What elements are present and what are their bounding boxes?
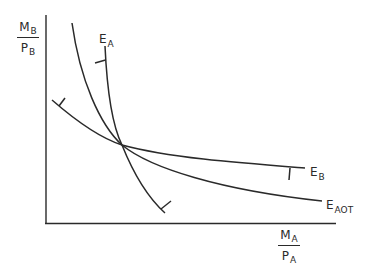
label-e-aot: EAOT bbox=[326, 196, 353, 212]
y-axis-label: MB PB bbox=[17, 20, 39, 56]
x-label-fraction-bar bbox=[278, 245, 300, 246]
curve-e-b bbox=[52, 100, 305, 168]
tick-e-b-left bbox=[59, 98, 65, 106]
curve-e-a bbox=[105, 46, 165, 213]
tick-e-a-upper bbox=[95, 60, 106, 63]
x-label-numerator: M bbox=[280, 228, 290, 242]
x-axis-label: MA PA bbox=[278, 228, 300, 264]
y-label-denominator: P bbox=[21, 41, 28, 55]
curve-e-aot bbox=[72, 23, 322, 201]
y-label-fraction-bar bbox=[17, 37, 39, 38]
tick-e-a-lower bbox=[161, 201, 171, 209]
tick-e-b-right bbox=[289, 168, 290, 180]
diagram-canvas bbox=[0, 0, 371, 276]
y-label-numerator: M bbox=[19, 20, 29, 34]
label-e-a: EA bbox=[99, 30, 114, 46]
x-label-denominator: P bbox=[282, 249, 289, 263]
label-e-b: EB bbox=[310, 163, 325, 179]
